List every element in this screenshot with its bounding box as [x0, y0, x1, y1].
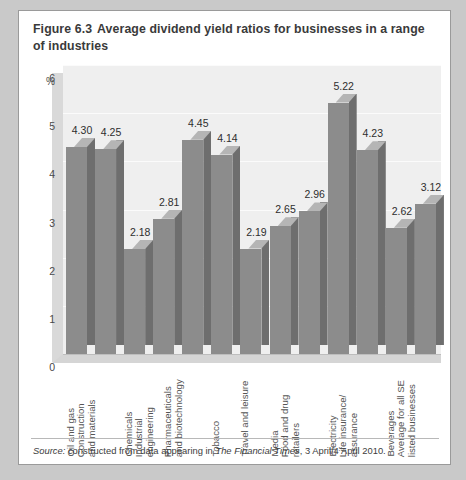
bar-column[interactable]: 2.81	[153, 210, 185, 354]
bar-value-label: 4.14	[206, 132, 248, 144]
bar-column[interactable]: 4.23	[357, 141, 389, 354]
x-axis-label-line: Average for all SE	[396, 357, 407, 457]
x-axis-label-line: Travel and leisure	[241, 357, 252, 457]
y-axis-tick-label: 5	[29, 121, 55, 131]
x-axis-label-line: retailers	[290, 357, 301, 457]
bar-side-face	[232, 146, 240, 345]
bar-column[interactable]: 2.65	[270, 217, 302, 354]
bar-series: 4.304.252.182.814.454.142.192.652.965.22…	[63, 65, 441, 363]
source-note: Source: constructed from data appearing …	[33, 445, 386, 456]
bar-front-face	[95, 149, 116, 354]
bar-side-face	[407, 219, 415, 345]
x-axis-labels: Oil and gasConstructionand materialsChem…	[63, 359, 441, 459]
bar-value-label: 5.22	[323, 80, 365, 92]
bar-side-face	[320, 202, 328, 345]
chart-plot-area: % 0123456 4.304.252.182.814.454.142.192.…	[29, 59, 441, 431]
y-axis-tick-label: 6	[29, 73, 55, 83]
x-axis-label-line: Food and drug	[279, 357, 290, 457]
bar-column[interactable]: 2.96	[299, 202, 331, 354]
bar-front-face	[240, 249, 261, 354]
bar-column[interactable]: 3.12	[415, 195, 447, 354]
x-axis-category-label: Pharmaceuticalsand biotechnology	[163, 357, 184, 457]
bar-side-face	[378, 141, 386, 345]
bar-front-face	[66, 147, 87, 354]
source-publication: The Financial Times	[215, 445, 299, 456]
bar-value-label: 3.12	[410, 181, 452, 193]
bar-side-face	[291, 217, 299, 345]
bar-column[interactable]: 4.30	[66, 138, 98, 354]
source-label: Source:	[33, 445, 65, 456]
bar-front-face	[386, 228, 407, 354]
bar-front-face	[328, 103, 349, 354]
source-text-before: constructed from data appearing in	[65, 445, 215, 456]
bar-front-face	[299, 211, 320, 354]
x-axis-category-label: Life insurance/assurance	[338, 357, 359, 457]
x-axis-category-label: Constructionand materials	[76, 357, 97, 457]
bar-column[interactable]: 4.25	[95, 140, 127, 354]
bar-front-face	[415, 204, 436, 354]
bar-value-label: 4.45	[177, 117, 219, 129]
y-axis-tick-label: 1	[29, 314, 55, 324]
bar-side-face	[261, 240, 269, 345]
bar-front-face	[153, 219, 174, 354]
figure-frame: Figure 6.3Average dividend yield ratios …	[18, 10, 451, 465]
bar-column[interactable]: 4.14	[211, 146, 243, 354]
bar-side-face	[87, 138, 95, 345]
x-axis-category-label: Tobacco	[212, 357, 223, 457]
x-axis-label-line: listed businesses	[406, 357, 417, 457]
y-axis-tick-label: 0	[29, 362, 55, 372]
figure-caption: Figure 6.3Average dividend yield ratios …	[33, 21, 437, 55]
bar-side-face	[203, 131, 211, 345]
source-divider	[31, 438, 439, 439]
bar-side-face	[174, 210, 182, 345]
source-text-after: , 3 April/4 April 2010.	[300, 445, 386, 456]
x-axis-category-label: Food and drugretailers	[279, 357, 300, 457]
x-axis-category-label: Average for all SElisted businesses	[396, 357, 417, 457]
bar-front-face	[124, 249, 145, 354]
x-axis-label-line: Tobacco	[212, 357, 223, 457]
bar-column[interactable]: 4.45	[182, 131, 214, 354]
y-axis-tick-label: 2	[29, 266, 55, 276]
figure-number: Figure 6.3	[33, 22, 92, 36]
bar-front-face	[211, 155, 232, 354]
x-axis-category-label: Travel and leisure	[241, 357, 252, 457]
bar-value-label: 4.23	[352, 127, 394, 139]
bar-column[interactable]: 2.62	[386, 219, 418, 354]
bar-front-face	[182, 140, 203, 354]
x-axis-label-line: and materials	[86, 357, 97, 457]
bar-front-face	[270, 226, 291, 354]
bar-side-face	[145, 240, 153, 345]
x-axis-category-label: Industrialengineering	[134, 357, 155, 457]
x-axis-label-line: Life insurance/	[338, 357, 349, 457]
y-axis-tick-label: 4	[29, 169, 55, 179]
bar-side-face	[436, 195, 444, 345]
bar-column[interactable]: 2.18	[124, 240, 156, 354]
bar-front-face	[357, 150, 378, 354]
x-axis-label-line: and biotechnology	[174, 357, 185, 457]
bar-side-face	[116, 140, 124, 345]
x-axis-label-line: engineering	[145, 357, 156, 457]
bar-column[interactable]: 2.19	[240, 240, 272, 354]
x-axis-label-line: assurance	[348, 357, 359, 457]
y-axis-tick-label: 3	[29, 218, 55, 228]
bar-value-label: 4.25	[90, 126, 132, 138]
